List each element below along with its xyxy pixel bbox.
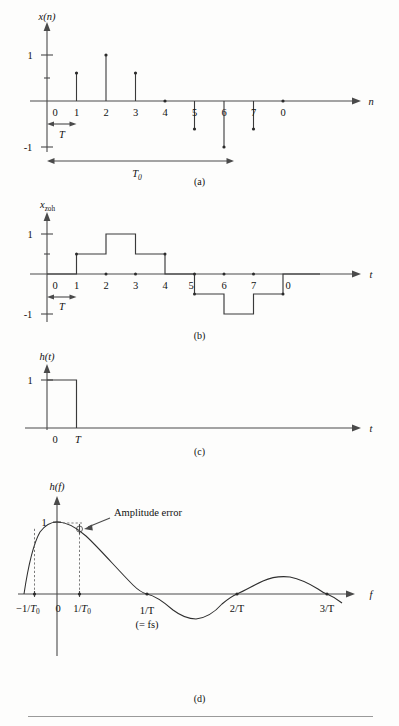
panel-d-xtick-1-over-T: 1/T [140, 605, 155, 616]
x-tick-dot-positive-1-over-T0 [78, 592, 81, 595]
xtick-pos-sub: 0 [87, 607, 91, 616]
panel-a-xtick-2: 2 [103, 107, 108, 118]
period-span-arrowhead-left [47, 158, 55, 164]
panel-d-xtick-3-over-T: 3/T [320, 603, 335, 614]
x-axis-arrowhead [352, 271, 361, 278]
panel-d-ylabel: h(f) [49, 481, 65, 493]
step-corner-8 [282, 293, 285, 296]
panel-b-xlabel: t [370, 269, 374, 280]
y-axis-arrowhead [54, 496, 61, 505]
step-corner-5 [193, 293, 196, 296]
panel-d-xtick-2-over-T: 2/T [230, 603, 245, 614]
panel-c-xtick-zero: 0 [52, 434, 57, 445]
panel-b-xtick-3: 3 [133, 280, 138, 291]
panel-d-xtick-negative-1-over-T0: −1/T0 [16, 603, 40, 616]
panel-b-xtick-5: 5 [188, 280, 193, 291]
panel-d-xtick-zero: 0 [55, 603, 60, 614]
panel-b: 1 -1 xzoh t 0 1 2 3 4 5 6 7 [0, 190, 399, 340]
axis-marker-2 [105, 273, 108, 276]
panel-b-xtick-6: 6 [221, 280, 226, 291]
panel-a-xlabel: n [368, 96, 373, 107]
panel-b-plot: 1 -1 xzoh t 0 1 2 3 4 5 6 7 [0, 190, 399, 340]
stem-point-8 [281, 99, 284, 102]
panel-a: 1 -1 x(n) n [0, 0, 399, 185]
axis-marker-7 [252, 273, 255, 276]
panel-b-xtick-2: 2 [103, 280, 108, 291]
panel-b-sample-interval-label: T [59, 301, 66, 312]
y-axis-arrowhead [44, 22, 51, 31]
panel-b-xtick-8: 0 [285, 280, 290, 291]
axis-marker-6 [223, 273, 226, 276]
period-span-arrowhead-right [227, 158, 235, 164]
panel-a-xtick-1: 1 [74, 107, 79, 118]
amplitude-error-arrowhead [84, 525, 93, 531]
step-corner-1 [75, 253, 78, 256]
panel-c-xlabel: t [370, 423, 374, 434]
panel-a-xtick-7: 7 [251, 107, 256, 118]
xtick-neg-sub: 0 [36, 607, 40, 616]
panel-d-xtick-positive-1-over-T0: 1/T0 [73, 603, 91, 616]
panel-b-ylabel-subscript: zoh [45, 205, 56, 213]
panel-a-xtick-4: 4 [162, 107, 168, 118]
stem-point-5 [193, 127, 196, 130]
panel-b-xtick-7: 7 [251, 280, 256, 291]
y-axis-arrowhead [44, 364, 51, 373]
panel-b-ytick-positive-label: 1 [27, 229, 32, 240]
panel-a-caption: (a) [0, 176, 399, 187]
panel-d-caption: (d) [0, 693, 399, 704]
stem-point-2 [104, 53, 107, 56]
panel-a-xtick-6: 6 [221, 107, 226, 118]
sample-interval-arrowhead-right [70, 121, 77, 126]
panel-c-caption: (c) [0, 446, 399, 457]
x-axis-arrowhead [352, 98, 361, 105]
panel-c-plot: 1 h(t) t 0 T [0, 348, 399, 458]
panel-a-xtick-8: 0 [280, 107, 285, 118]
panel-a-ytick-positive-label: 1 [27, 50, 32, 61]
y-axis-arrowhead [44, 212, 51, 221]
panel-c-ytick-positive-label: 1 [27, 375, 32, 386]
panel-c: 1 h(t) t 0 T [0, 348, 399, 458]
sample-interval-arrowhead-right [70, 294, 77, 299]
rect-pulse-path [47, 380, 77, 428]
figure-page: 1 -1 x(n) n [0, 0, 399, 726]
panel-b-caption: (b) [0, 330, 399, 341]
panel-c-xtick-T: T [75, 434, 82, 445]
x-tick-dot-negative-1-over-T0 [33, 592, 36, 595]
panel-b-xtick-0: 0 [52, 280, 57, 291]
stem-point-7 [252, 127, 255, 130]
panel-b-ylabel: xzoh [39, 199, 55, 213]
stem-point-1 [75, 71, 78, 74]
x-tick-dot-2-over-T [235, 592, 238, 595]
stem-point-3 [134, 71, 137, 74]
x-axis-arrowhead [352, 425, 361, 432]
axis-marker-3 [134, 273, 137, 276]
panel-d-xtick-sampling-rate: (= fs) [135, 619, 159, 631]
panel-b-ytick-negative-label: -1 [24, 309, 33, 320]
panel-d: 1 h(f) f Amplitude error [0, 466, 399, 691]
panel-c-ylabel: h(t) [39, 351, 55, 363]
panel-a-ytick-negative-label: -1 [24, 142, 33, 153]
stem-point-6 [222, 145, 225, 148]
panel-d-xlabel: f [370, 589, 375, 600]
xtick-neg-base: −1/ [16, 603, 30, 614]
sample-interval-arrowhead-left [47, 294, 54, 299]
panel-d-annotation-amplitude-error: Amplitude error [114, 507, 182, 518]
panel-a-sample-interval-label: T [59, 129, 66, 140]
step-corner-4 [164, 253, 167, 256]
panel-a-xtick-5: 5 [192, 107, 197, 118]
panel-d-plot: 1 h(f) f Amplitude error [0, 466, 399, 691]
axis-marker-5 [193, 273, 196, 276]
sinc-curve-path [24, 522, 342, 619]
stem-point-4 [163, 99, 166, 102]
xtick-pos-base: 1/ [73, 603, 81, 614]
panel-a-ylabel: x(n) [38, 11, 56, 23]
x-tick-dot-3-over-T [325, 592, 328, 595]
footer-divider [28, 716, 373, 717]
panel-a-xtick-0: 0 [52, 107, 57, 118]
panel-b-xtick-4: 4 [162, 280, 168, 291]
panel-b-xtick-1: 1 [74, 280, 79, 291]
x-tick-dot-1-over-T [145, 592, 148, 595]
x-axis-arrowhead [346, 591, 355, 598]
sample-interval-arrowhead-left [47, 121, 54, 126]
panel-a-plot: 1 -1 x(n) n [0, 0, 399, 185]
